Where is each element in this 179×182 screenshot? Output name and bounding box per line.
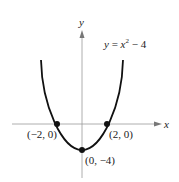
eq-rest: − 4	[132, 38, 146, 50]
y-axis-label: y	[79, 17, 84, 28]
x-axis-arrow-icon	[154, 122, 162, 127]
eq-exponent: 2	[126, 37, 130, 45]
point-2-0	[104, 121, 110, 127]
label-2-0: (2, 0)	[109, 129, 133, 140]
label-neg2-0: (−2, 0)	[27, 129, 57, 140]
label-0-neg4: (0, −4)	[85, 155, 115, 166]
x-axis-label: x	[164, 119, 169, 130]
y-axis-arrow-icon	[80, 30, 85, 38]
equation-label: y = x2 − 4	[104, 38, 146, 50]
point-neg2-0	[54, 121, 60, 127]
point-0-neg4	[79, 147, 85, 153]
eq-lhs: y	[104, 38, 109, 50]
parabola-graph: y x y = x2 − 4 (−2, 0) (2, 0) (0, −4)	[0, 0, 179, 182]
